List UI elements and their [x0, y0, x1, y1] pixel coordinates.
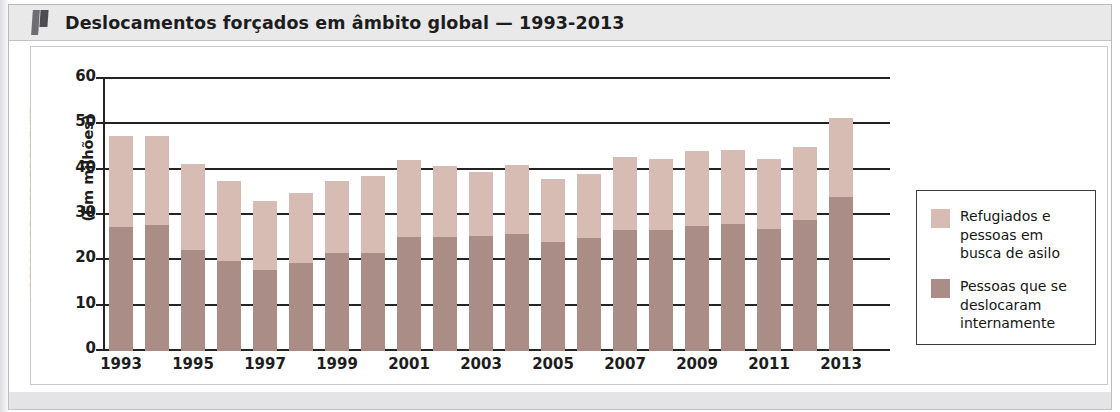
bar-segment-refugees-2006	[577, 174, 601, 238]
bar-segment-idp-1995	[181, 250, 205, 351]
y-tick-label-30: 30	[62, 205, 96, 220]
x-tick-label-2009: 2009	[667, 355, 727, 373]
bar-segment-idp-2007	[613, 230, 637, 351]
bar-segment-idp-1997	[253, 270, 277, 351]
bar-1996	[217, 181, 241, 351]
bar-2001	[397, 160, 421, 351]
bar-segment-refugees-1998	[289, 193, 313, 263]
x-tick-label-2007: 2007	[595, 355, 655, 373]
x-tick-label-2013: 2013	[811, 355, 871, 373]
bar-segment-idp-2009	[685, 226, 709, 351]
y-tick-label-60: 60	[62, 69, 96, 84]
bar-2013	[829, 118, 853, 351]
figure-bottom-strip	[8, 392, 1112, 410]
bar-segment-idp-2001	[397, 237, 421, 351]
bar-2011	[757, 159, 781, 351]
y-tick-label-0: 0	[62, 341, 96, 356]
bar-segment-refugees-1994	[145, 136, 169, 224]
bar-2008	[649, 159, 673, 351]
bar-segment-refugees-2008	[649, 159, 673, 229]
bar-segment-idp-2008	[649, 230, 673, 351]
figure-title-bar: Deslocamentos forçados em âmbito global …	[9, 5, 1111, 41]
y-tick-label-20: 20	[62, 250, 96, 265]
chart-legend: Refugiados e pessoas em busca de asilo P…	[916, 190, 1096, 345]
bar-segment-refugees-2009	[685, 151, 709, 226]
legend-item-idp: Pessoas que se deslocaram internamente	[931, 277, 1078, 333]
bar-segment-refugees-2007	[613, 157, 637, 230]
bar-1999	[325, 181, 349, 351]
x-tick-label-2001: 2001	[379, 355, 439, 373]
x-tick-label-2011: 2011	[739, 355, 799, 373]
bar-segment-idp-2011	[757, 229, 781, 351]
bar-segment-idp-2005	[541, 242, 565, 351]
y-tick-50	[96, 122, 104, 124]
figure-screenshot: Deslocamentos forçados em âmbito global …	[0, 0, 1120, 412]
y-tick-40	[96, 168, 104, 170]
bar-segment-idp-1998	[289, 263, 313, 351]
bar-1997	[253, 201, 277, 352]
bar-segment-idp-2000	[361, 253, 385, 351]
bar-segment-refugees-2001	[397, 160, 421, 237]
bar-segment-idp-1993	[109, 227, 133, 351]
bar-segment-idp-2002	[433, 237, 457, 351]
bar-segment-idp-2013	[829, 197, 853, 351]
bar-segment-idp-2010	[721, 224, 745, 351]
bar-segment-idp-1999	[325, 253, 349, 351]
bar-2003	[469, 172, 493, 351]
y-tick-30	[96, 213, 104, 215]
legend-item-refugees: Refugiados e pessoas em busca de asilo	[931, 207, 1078, 263]
x-tick-label-2005: 2005	[523, 355, 583, 373]
bar-segment-idp-1994	[145, 225, 169, 351]
bar-segment-refugees-2010	[721, 150, 745, 224]
bar-segment-refugees-1997	[253, 201, 277, 271]
gridline-60	[103, 77, 890, 79]
x-tick-label-1999: 1999	[307, 355, 367, 373]
y-tick-0	[96, 349, 104, 351]
bar-2002	[433, 166, 457, 351]
y-tick-label-10: 10	[62, 296, 96, 311]
bar-2009	[685, 151, 709, 351]
y-tick-label-50: 50	[62, 114, 96, 129]
bar-segment-idp-2006	[577, 238, 601, 351]
bar-1998	[289, 193, 313, 351]
bar-2012	[793, 147, 817, 351]
y-tick-label-40: 40	[62, 160, 96, 175]
bar-segment-refugees-2000	[361, 176, 385, 253]
bar-segment-idp-2003	[469, 236, 493, 351]
quote-mark-icon	[31, 10, 53, 35]
bar-segment-idp-2012	[793, 220, 817, 351]
bar-segment-refugees-1993	[109, 136, 133, 227]
bar-2000	[361, 176, 385, 351]
y-tick-20	[96, 258, 104, 260]
y-tick-60	[96, 77, 104, 79]
bar-segment-refugees-2011	[757, 159, 781, 229]
bar-segment-refugees-2003	[469, 172, 493, 236]
page-title: Deslocamentos forçados em âmbito global …	[65, 13, 625, 33]
x-tick-label-2003: 2003	[451, 355, 511, 373]
plot-area	[103, 70, 893, 358]
bar-segment-idp-1996	[217, 261, 241, 351]
legend-swatch-dark	[931, 279, 950, 298]
bar-segment-refugees-2005	[541, 179, 565, 242]
x-tick-label-1993: 1993	[91, 355, 151, 373]
bar-1993	[109, 136, 133, 351]
bar-1995	[181, 164, 205, 351]
x-tick-label-1995: 1995	[163, 355, 223, 373]
bar-segment-refugees-1999	[325, 181, 349, 253]
bar-segment-refugees-2012	[793, 147, 817, 220]
bar-2006	[577, 174, 601, 351]
gridline-50	[103, 122, 890, 124]
x-axis-tick-labels: 1993199519971999200120032005200720092011…	[103, 355, 893, 381]
bar-2010	[721, 150, 745, 351]
x-tick-label-1997: 1997	[235, 355, 295, 373]
bar-segment-refugees-1996	[217, 181, 241, 261]
bar-segment-refugees-2002	[433, 166, 457, 237]
y-tick-10	[96, 304, 104, 306]
bar-segment-refugees-2013	[829, 118, 853, 197]
legend-label-refugees: Refugiados e pessoas em busca de asilo	[960, 207, 1078, 263]
bar-2004	[505, 165, 529, 351]
bar-segment-refugees-2004	[505, 165, 529, 234]
bar-segment-refugees-1995	[181, 164, 205, 250]
bar-1994	[145, 136, 169, 351]
legend-label-idp: Pessoas que se deslocaram internamente	[960, 277, 1078, 333]
